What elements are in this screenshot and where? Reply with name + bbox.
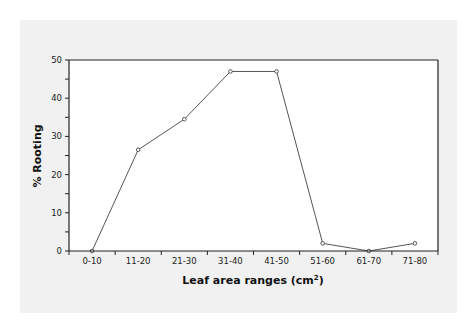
x-axis-title: Leaf area ranges (cm2)	[182, 274, 323, 287]
y-tick-label: 40	[51, 93, 62, 103]
data-point-marker	[229, 70, 233, 74]
x-tick-label: 21-30	[172, 256, 197, 266]
data-point-marker	[136, 148, 140, 152]
x-tick-label: 41-50	[264, 256, 289, 266]
y-tick-label: 30	[51, 131, 62, 141]
y-tick-label: 0	[57, 246, 62, 256]
x-tick-label: 11-20	[126, 256, 151, 266]
y-tick-label: 20	[51, 170, 62, 180]
data-point-marker	[321, 242, 325, 246]
data-point-marker	[183, 117, 187, 121]
data-point-marker	[413, 242, 417, 246]
x-tick-label: 0-10	[82, 256, 101, 266]
line-chart: 01020304050 0-1011-2021-3031-4041-5051-6…	[0, 0, 475, 329]
data-point-marker	[275, 70, 279, 74]
y-axis-title: % Rooting	[31, 124, 44, 187]
y-axis: 01020304050	[51, 55, 69, 256]
plot-area	[69, 60, 438, 251]
y-tick-label: 50	[51, 55, 62, 65]
x-axis: 0-1011-2021-3031-4041-5051-6061-7071-80	[69, 251, 438, 266]
x-tick-label: 71-80	[403, 256, 428, 266]
x-tick-label: 51-60	[310, 256, 335, 266]
x-tick-label: 61-70	[356, 256, 381, 266]
x-tick-label: 31-40	[218, 256, 243, 266]
y-tick-label: 10	[51, 208, 62, 218]
